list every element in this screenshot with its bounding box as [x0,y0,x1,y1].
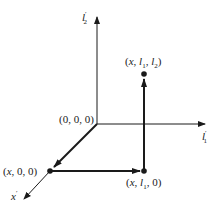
path-segment-origin-to-p1 [54,124,97,167]
point-label-p2: (x, l1, 0) [126,177,161,191]
coordinate-diagram [0,0,222,211]
point-label-origin: (0, 0, 0) [59,114,94,125]
axis-label-x: x′ [11,190,17,202]
point-label-p1: (x, 0, 0) [3,166,37,177]
point-label-p3: (x, l1, l2) [125,56,161,70]
axis-label-l2: l′2 [82,11,87,26]
axis-label-l1: l′1 [202,130,207,145]
point-p1 [47,168,53,174]
point-p3 [141,71,147,77]
point-p2 [141,168,147,174]
